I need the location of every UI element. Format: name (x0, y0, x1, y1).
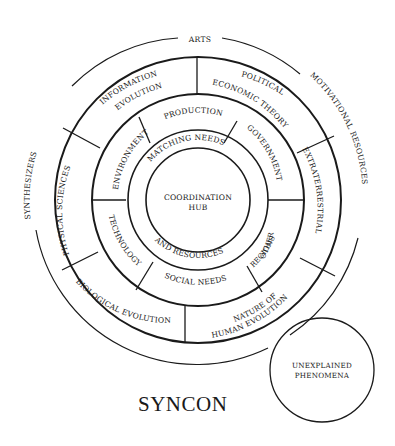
sector-social-needs: SOCIAL NEEDS (163, 271, 228, 287)
sector-biological-evolution: BIOLOGICAL EVOLUTION (74, 277, 171, 325)
hub-label-line2: HUB (188, 203, 207, 212)
diagram-title: SYNCON (138, 392, 227, 417)
satellite-label-line2: PHENOMENA (295, 371, 350, 380)
satellite-label-line1: UNEXPLAINED (292, 361, 352, 370)
unexplained-phenomena-circle (270, 318, 374, 422)
label-arts: ARTS (188, 35, 212, 44)
hub-label-line1: COORDINATION (164, 193, 232, 202)
sector-production: PRODUCTION (162, 106, 224, 121)
label-synthesizers: SYNTHESIZERS (22, 150, 38, 220)
sector-technology: TECHNOLOGY (107, 214, 144, 269)
sector-regions: REGIONS (248, 234, 277, 269)
syncon-diagram: ARTS SYNTHESIZERS MOTIVATIONAL RESOURCES… (0, 0, 395, 446)
label-matching-needs: MATCHING NEEDS (145, 133, 226, 163)
